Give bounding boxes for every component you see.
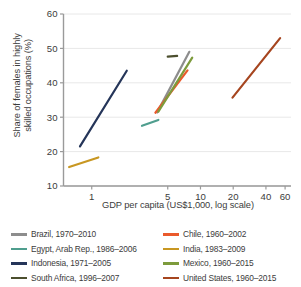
legend-label-south-africa: South Africa, 1996–2007 xyxy=(31,273,119,283)
legend-row: South Africa, 1996–2007 United States, 1… xyxy=(11,271,297,286)
y-axis-tick-label: 30 xyxy=(47,112,58,123)
legend-item-egypt[interactable]: Egypt, Arab Rep., 1986–2006 xyxy=(11,244,163,254)
legend-row: Indonesia, 1971–2005 Mexico, 1960–2015 xyxy=(11,256,297,271)
legend-swatch-south-africa xyxy=(11,277,27,280)
legend-swatch-egypt xyxy=(11,248,27,251)
legend-swatch-india xyxy=(163,248,179,251)
legend-swatch-united-states xyxy=(163,277,179,280)
chart-plot-region: 1020304050601510204060 Share of females … xyxy=(0,0,301,222)
legend-item-mexico[interactable]: Mexico, 1960–2015 xyxy=(163,258,297,268)
legend-row: Egypt, Arab Rep., 1986–2006 India, 1983–… xyxy=(11,242,297,257)
y-axis-tick-label: 10 xyxy=(47,180,58,191)
legend-item-chile[interactable]: Chile, 1960–2002 xyxy=(163,229,297,239)
figure-container: 1020304050601510204060 Share of females … xyxy=(0,0,301,287)
legend-item-brazil[interactable]: Brazil, 1970–2010 xyxy=(11,229,163,239)
series-line xyxy=(69,157,98,167)
line-chart-svg: 1020304050601510204060 xyxy=(0,0,301,222)
legend-label-mexico: Mexico, 1960–2015 xyxy=(183,258,254,268)
legend-swatch-mexico xyxy=(163,262,179,265)
axis-ticks-group xyxy=(60,14,285,190)
legend-swatch-chile xyxy=(163,233,179,236)
series-line xyxy=(80,71,127,147)
chart-legend: Brazil, 1970–2010 Chile, 1960–2002 Egypt… xyxy=(0,224,301,287)
legend-item-united-states[interactable]: United States, 1960–2015 xyxy=(163,273,297,283)
legend-label-brazil: Brazil, 1970–2010 xyxy=(31,229,96,239)
series-line xyxy=(142,120,158,126)
legend-label-united-states: United States, 1960–2015 xyxy=(183,273,276,283)
axis-tick-labels-group: 1020304050601510204060 xyxy=(47,8,291,201)
x-axis-title: GDP per capita (US$1,000, log scale) xyxy=(55,200,301,210)
y-axis-tick-label: 20 xyxy=(47,146,58,157)
legend-item-india[interactable]: India, 1983–2009 xyxy=(163,244,297,254)
series-line xyxy=(168,56,177,57)
y-axis-tick-label: 50 xyxy=(47,43,58,54)
legend-label-egypt: Egypt, Arab Rep., 1986–2006 xyxy=(31,244,137,254)
y-axis-tick-label: 40 xyxy=(47,77,58,88)
legend-swatch-indonesia xyxy=(11,262,27,265)
legend-label-chile: Chile, 1960–2002 xyxy=(183,229,246,239)
series-line xyxy=(158,58,192,112)
legend-label-indonesia: Indonesia, 1971–2005 xyxy=(31,258,111,268)
legend-swatch-brazil xyxy=(11,233,27,236)
legend-row: Brazil, 1970–2010 Chile, 1960–2002 xyxy=(11,227,297,242)
legend-item-south-africa[interactable]: South Africa, 1996–2007 xyxy=(11,273,163,283)
data-series-group xyxy=(69,38,280,167)
y-axis-tick-label: 60 xyxy=(47,8,58,19)
legend-label-india: India, 1983–2009 xyxy=(183,244,245,254)
gridlines-group xyxy=(64,14,292,186)
legend-item-indonesia[interactable]: Indonesia, 1971–2005 xyxy=(11,258,163,268)
series-line xyxy=(232,38,280,98)
axis-lines-group xyxy=(64,14,292,186)
y-axis-title: Share of females in highly skilled occup… xyxy=(12,0,35,180)
